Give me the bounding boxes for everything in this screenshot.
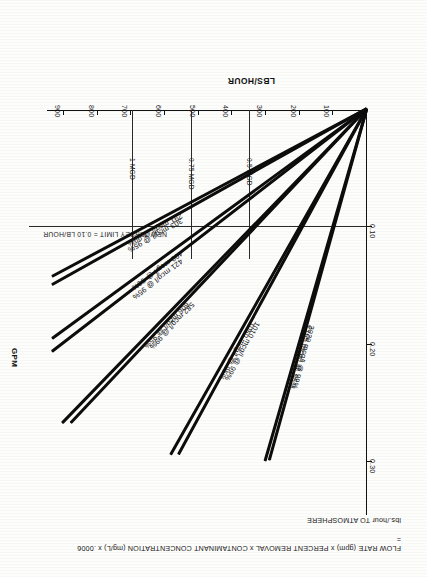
mgd-marker-label: 0.75 MGD	[188, 158, 195, 190]
x-axis-title: GPM	[10, 349, 19, 368]
x-tick	[332, 110, 333, 115]
x-tick-label: 100	[323, 105, 330, 117]
series-label: 1050 mcg/l @ 95%	[217, 320, 257, 382]
y-tick-label: 0.10	[369, 224, 376, 238]
figure-title-line-1: FLOW RATE (gpm) x PERCENT REMOVAL x CONT…	[71, 535, 401, 554]
x-tick	[198, 110, 199, 115]
x-tick-label: 200	[290, 105, 297, 117]
x-tick	[130, 110, 131, 115]
figure-title-line-2: lbs./hour TO ATMOSPHERE	[71, 516, 401, 526]
y-axis	[366, 110, 367, 515]
figure-page: FLOW RATE (gpm) x PERCENT REMOVAL x CONT…	[0, 0, 427, 577]
x-tick	[63, 110, 64, 115]
mgd-marker-label: 1 MGD	[129, 158, 136, 180]
y-tick-label: 0.20	[369, 342, 376, 356]
x-tick	[265, 110, 266, 115]
x-tick-label: 800	[88, 105, 95, 117]
x-tick-label: 600	[155, 105, 162, 117]
x-tick-label: 700	[121, 105, 128, 117]
rotated-figure-canvas: FLOW RATE (gpm) x PERCENT REMOVAL x CONT…	[0, 0, 427, 577]
y-axis-title: LBS/HOUR	[227, 76, 275, 86]
x-tick	[299, 110, 300, 115]
nj-limit-line	[29, 227, 367, 228]
x-tick	[164, 110, 165, 115]
x-tick	[231, 110, 232, 115]
x-tick-label: 400	[222, 105, 229, 117]
series-line	[51, 108, 368, 353]
series-label: 606 mcg/l @ 95%	[142, 300, 191, 350]
x-tick-label: 900	[54, 105, 61, 117]
y-tick-label: 0.30	[369, 459, 376, 473]
x-tick	[97, 110, 98, 115]
x-tick-label: 300	[256, 105, 263, 117]
plot-area: 100200300400500600700800900 0.100.200.30…	[47, 110, 367, 515]
x-axis	[47, 110, 367, 111]
